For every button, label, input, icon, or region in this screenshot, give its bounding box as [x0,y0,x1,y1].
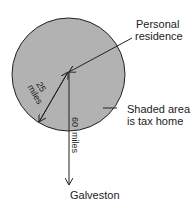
personal-residence-label: Personal [136,18,179,30]
galveston-label: Galveston [70,189,120,201]
shaded-area-label-2: is tax home [127,115,183,127]
distance-unit-label: miles [70,132,80,154]
tax-home-diagram: Personal residence Shaded area is tax ho… [0,0,195,210]
personal-residence-label-2: residence [135,30,183,42]
shaded-area-label: Shaded area [127,103,191,115]
distance-value-label: 60 [70,117,80,127]
